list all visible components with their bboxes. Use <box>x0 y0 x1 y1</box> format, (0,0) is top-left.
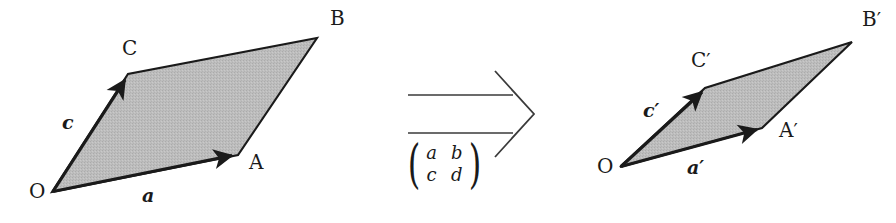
source-parallelogram <box>52 38 317 192</box>
vector-label-a-prime: a′ <box>687 158 704 177</box>
vector-label-a-prime-text: a <box>687 156 699 178</box>
matrix-left-paren: ( <box>408 143 421 186</box>
vertex-label-A: A <box>249 152 263 172</box>
vertex-label-C-prime: C′ <box>691 50 711 70</box>
vertex-label-B-prime: B′ <box>862 9 881 29</box>
prime-mark-C: ′ <box>706 49 710 71</box>
vector-label-c-prime: c′ <box>643 101 659 120</box>
matrix-cell-b: b <box>451 143 463 163</box>
arrow-chevron-icon <box>495 71 534 157</box>
figure-canvas <box>0 0 896 223</box>
vertex-label-A-prime: A′ <box>779 120 798 140</box>
vector-label-c: c <box>62 113 74 132</box>
linear-transformation-figure: O A B C a c ( a b c d ) O A′ B′ C′ a′ c′ <box>0 0 896 223</box>
transformation-matrix: ( a b c d ) <box>404 143 485 186</box>
vertex-label-O: O <box>29 181 45 201</box>
vertex-label-O-target: O <box>597 156 613 176</box>
matrix-cells: a b c d <box>424 143 464 185</box>
vertex-label-B: B <box>330 8 345 28</box>
vertex-label-C-prime-text: C <box>691 48 706 72</box>
vertex-label-A-prime-text: A <box>779 118 793 142</box>
prime-mark-B: ′ <box>877 8 881 30</box>
vertex-label-B-prime-text: B <box>862 7 877 31</box>
prime-mark-A: ′ <box>793 119 797 141</box>
matrix-right-paren: ) <box>468 143 481 186</box>
prime-mark-vector-c: ′ <box>655 100 660 121</box>
prime-mark-vector-a: ′ <box>699 157 704 178</box>
vector-label-c-prime-text: c <box>643 99 655 121</box>
vertex-label-C: C <box>122 38 137 58</box>
matrix-cell-a: a <box>426 143 437 163</box>
matrix-cell-c: c <box>426 165 437 185</box>
vector-label-a: a <box>142 186 154 205</box>
matrix-cell-d: d <box>451 165 463 185</box>
source-parallelogram-fill <box>52 38 317 192</box>
